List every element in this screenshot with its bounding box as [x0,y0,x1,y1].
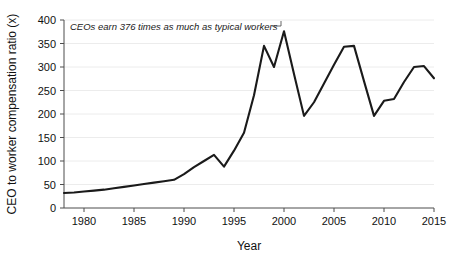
x-tick-label: 2000 [272,215,296,227]
y-tick-label: 200 [38,108,56,120]
y-axis-title: CEO to worker compensation ratio (x) [5,14,19,215]
line-chart: 050100150200250300350400 198019851990199… [0,0,450,258]
x-tick-label: 2015 [422,215,446,227]
y-tick-label: 50 [44,179,56,191]
x-tick-label: 1985 [122,215,146,227]
x-tick-label: 1995 [222,215,246,227]
y-tick-label: 150 [38,132,56,144]
chart-figure: 050100150200250300350400 198019851990199… [0,0,450,258]
x-tick-label: 1990 [172,215,196,227]
x-axis-title: Year [237,239,261,253]
x-tick-label: 1980 [72,215,96,227]
y-tick-label: 400 [38,14,56,26]
y-tick-label: 250 [38,85,56,97]
x-tick-label: 2010 [372,215,396,227]
y-tick-label: 100 [38,155,56,167]
x-tick-label: 2005 [322,215,346,227]
y-tick-label: 350 [38,38,56,50]
annotation-label: CEOs earn 376 times as much as typical w… [70,21,278,32]
y-tick-label: 300 [38,61,56,73]
y-tick-label: 0 [50,202,56,214]
